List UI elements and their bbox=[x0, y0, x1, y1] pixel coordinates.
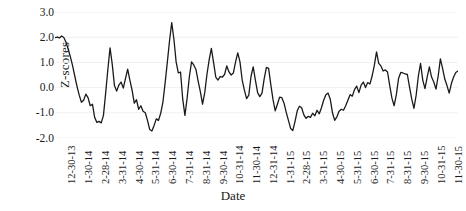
y-tick-label: 3.0 bbox=[40, 7, 54, 18]
x-tick-label: 11-30-14 bbox=[252, 146, 262, 184]
y-tick-label: 0.0 bbox=[40, 82, 54, 93]
x-tick-label: 12-31-14 bbox=[269, 146, 279, 185]
x-tick-label: 11-30-15 bbox=[454, 146, 464, 184]
x-tick-label: 6-30-14 bbox=[168, 151, 178, 184]
x-tick-label: 5-31-15 bbox=[353, 151, 363, 184]
plot-area bbox=[55, 12, 458, 138]
x-tick-label: 10-31-14 bbox=[235, 146, 245, 185]
x-tick-label: 4-30-14 bbox=[135, 151, 145, 184]
x-tick-label: 7-31-15 bbox=[386, 151, 396, 184]
x-tick-label: 3-31-15 bbox=[319, 151, 329, 184]
x-tick-label: 2-28-14 bbox=[101, 151, 111, 184]
x-tick-label: 9-30-14 bbox=[219, 151, 229, 184]
x-tick-label: 8-31-15 bbox=[403, 151, 413, 184]
y-tick-label: -2.0 bbox=[36, 133, 54, 144]
y-tick-label: 2.0 bbox=[40, 32, 54, 43]
x-tick-label: 2-28-15 bbox=[302, 151, 312, 184]
x-tick-label: 5-31-14 bbox=[151, 151, 161, 184]
x-tick-label: 1-31-15 bbox=[286, 151, 296, 184]
x-tick-label: 3-31-14 bbox=[118, 151, 128, 184]
z-scores-line-chart: Z-scores 3.02.01.00.0-1.0-2.0 12-30-131-… bbox=[0, 0, 466, 211]
x-tick-label: 12-30-13 bbox=[67, 146, 77, 185]
x-tick-label: 8-31-14 bbox=[202, 151, 212, 184]
x-axis-title: Date bbox=[0, 188, 466, 204]
x-tick-label: 7-31-14 bbox=[185, 151, 195, 184]
x-axis-tick-labels: 12-30-131-30-142-28-143-31-144-30-145-31… bbox=[55, 140, 458, 186]
x-tick-label: 9-30-15 bbox=[420, 151, 430, 184]
x-tick-label: 1-30-14 bbox=[84, 151, 94, 184]
x-tick-label: 4-30-15 bbox=[336, 151, 346, 184]
x-axis-title-label: Date bbox=[221, 188, 246, 203]
data-series-line bbox=[55, 23, 458, 131]
x-tick-label: 6-30-15 bbox=[370, 151, 380, 184]
y-axis-tick-labels: 3.02.01.00.0-1.0-2.0 bbox=[26, 0, 54, 150]
plot-svg bbox=[55, 12, 458, 138]
y-tick-label: -1.0 bbox=[36, 107, 54, 118]
x-tick-label: 10-31-15 bbox=[437, 146, 447, 185]
gridlines bbox=[55, 12, 458, 138]
y-tick-label: 1.0 bbox=[40, 57, 54, 68]
